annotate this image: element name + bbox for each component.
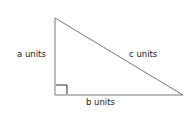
side-b-label: b units: [86, 98, 115, 107]
right-angle-marker-icon: [56, 85, 67, 94]
side-a-label: a units: [17, 50, 46, 59]
triangle-diagram: a units c units b units: [0, 0, 193, 118]
side-c-label: c units: [129, 50, 157, 59]
right-triangle: [55, 18, 183, 95]
